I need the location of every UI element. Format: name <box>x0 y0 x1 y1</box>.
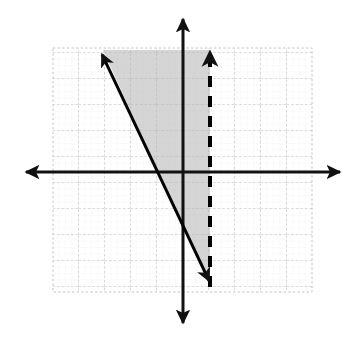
graph-canvas <box>0 0 354 340</box>
coordinate-plane-svg <box>0 0 354 340</box>
